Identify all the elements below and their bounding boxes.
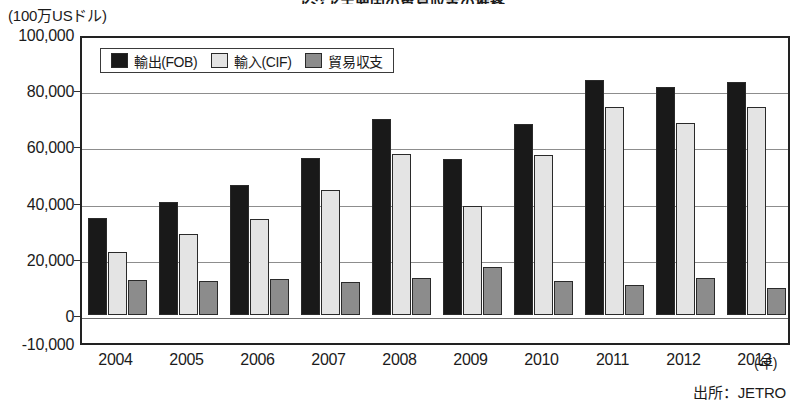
- legend-label-import: 輸入(CIF): [234, 51, 291, 71]
- bar-group-2010: [508, 34, 579, 343]
- bar-group-2011: [579, 34, 650, 343]
- bar-export-2004[interactable]: [88, 218, 107, 315]
- legend-item-import[interactable]: 輸入(CIF): [211, 51, 291, 71]
- bar-balance-2006[interactable]: [270, 279, 289, 315]
- bar-group-2008: [366, 34, 437, 343]
- bar-balance-2009[interactable]: [483, 267, 502, 315]
- bar-import-2009[interactable]: [463, 206, 482, 315]
- legend-label-balance: 貿易収支: [328, 51, 382, 71]
- bar-group-2006: [224, 34, 295, 343]
- bar-group-2012: [650, 34, 721, 343]
- bar-balance-2005[interactable]: [199, 281, 218, 315]
- bar-balance-2010[interactable]: [554, 281, 573, 315]
- bar-import-2012[interactable]: [676, 123, 695, 315]
- bar-import-2013[interactable]: [747, 107, 766, 315]
- plot-area: [80, 36, 790, 345]
- bar-export-2008[interactable]: [372, 119, 391, 315]
- bar-export-2012[interactable]: [656, 87, 675, 315]
- bar-balance-2012[interactable]: [696, 278, 715, 315]
- bar-import-2011[interactable]: [605, 107, 624, 315]
- bar-balance-2004[interactable]: [128, 280, 147, 315]
- bar-export-2011[interactable]: [585, 80, 604, 315]
- bar-export-2005[interactable]: [159, 202, 178, 315]
- legend-swatch-balance-icon: [305, 53, 322, 68]
- legend-item-balance[interactable]: 貿易収支: [305, 51, 382, 71]
- bar-group-2013: [721, 34, 792, 343]
- y-axis-unit-label: (100万USドル): [8, 4, 107, 25]
- y-axis-tick-label: 20,000: [0, 252, 74, 270]
- y-axis-tick-label: 100,000: [0, 27, 74, 45]
- source-note: 出所：JETRO: [693, 381, 786, 402]
- bar-balance-2007[interactable]: [341, 282, 360, 315]
- y-axis-tick-label: 40,000: [0, 196, 74, 214]
- bar-export-2007[interactable]: [301, 158, 320, 315]
- bar-export-2009[interactable]: [443, 159, 462, 315]
- y-axis-tick-label: 60,000: [0, 139, 74, 157]
- legend-item-export[interactable]: 輸出(FOB): [111, 51, 197, 71]
- legend-swatch-import-icon: [211, 53, 228, 68]
- bar-group-2007: [295, 34, 366, 343]
- bar-import-2007[interactable]: [321, 190, 340, 315]
- bar-balance-2008[interactable]: [412, 278, 431, 315]
- bar-balance-2011[interactable]: [625, 285, 644, 314]
- bar-import-2005[interactable]: [179, 234, 198, 315]
- x-axis-unit-label: (年): [754, 352, 777, 372]
- bar-balance-2013[interactable]: [767, 288, 786, 315]
- bar-export-2006[interactable]: [230, 185, 249, 315]
- bar-group-2004: [82, 34, 153, 343]
- y-axis-tick-label: 80,000: [0, 83, 74, 101]
- bar-import-2008[interactable]: [392, 154, 411, 315]
- legend-swatch-export-icon: [111, 53, 128, 68]
- bar-group-2009: [437, 34, 508, 343]
- bar-import-2004[interactable]: [108, 252, 127, 315]
- bar-group-2005: [153, 34, 224, 343]
- chart-legend: 輸出(FOB)輸入(CIF)貿易収支: [100, 48, 394, 73]
- legend-label-export: 輸出(FOB): [134, 51, 197, 71]
- bar-import-2006[interactable]: [250, 219, 269, 315]
- bar-export-2010[interactable]: [514, 124, 533, 315]
- bar-import-2010[interactable]: [534, 155, 553, 315]
- y-axis-tick-label: 0: [0, 308, 74, 326]
- y-axis-tick-label: -10,000: [0, 336, 74, 354]
- chart-title: アジア主要国の貿易収支の推移: [0, 0, 800, 4]
- bar-export-2013[interactable]: [727, 82, 746, 315]
